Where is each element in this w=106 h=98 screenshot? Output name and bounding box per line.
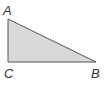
vertex-label-c: C xyxy=(4,66,14,81)
vertex-label-b: B xyxy=(91,66,100,81)
triangle-abc xyxy=(8,19,96,62)
vertex-label-a: A xyxy=(2,3,12,18)
triangle-diagram: A C B xyxy=(0,0,106,98)
